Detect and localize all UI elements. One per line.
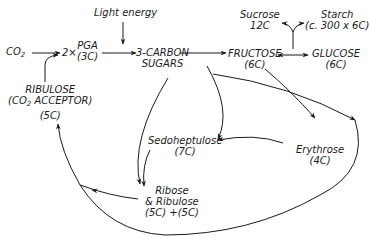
node-co2: CO2 (6, 46, 25, 61)
node-erythrose: Erythrose (4C) (296, 144, 344, 166)
arrow-sugars-to-loop (213, 74, 355, 120)
node-pga-prefix: 2× (62, 47, 77, 58)
node-ribose-ribulose: Ribose & Ribulose (5C) +(5C) (145, 185, 199, 218)
arrow-fructose-to-erythrose (265, 69, 315, 118)
node-ribulose-acceptor: RIBULOSE (CO2 ACCEPTOR) (5C) (8, 84, 92, 121)
node-light-energy: Light energy (94, 7, 157, 18)
node-sucrose: Sucrose 12C (240, 9, 280, 31)
arrow-to-starch (293, 23, 304, 32)
arrow-sugars-to-ribose (138, 78, 168, 184)
node-three-carbon-sugars: 3-CARBON SUGARS (136, 47, 189, 69)
node-sedoheptulose: Sedoheptulose (7C) (148, 135, 222, 157)
node-starch: Starch (c. 300 x 6C) (305, 9, 369, 31)
arrow-ribulose-to-pga (45, 55, 58, 82)
arrow-erythrose-to-sedoheptulose (218, 137, 283, 143)
node-pga: PGA (3C) (77, 40, 98, 62)
arrow-sugars-to-sedoheptulose (207, 66, 223, 139)
node-fructose: FRUCTOSE (6C) (228, 48, 282, 70)
node-glucose: GLUCOSE (6C) (312, 48, 360, 70)
arrow-to-sucrose (282, 23, 293, 32)
